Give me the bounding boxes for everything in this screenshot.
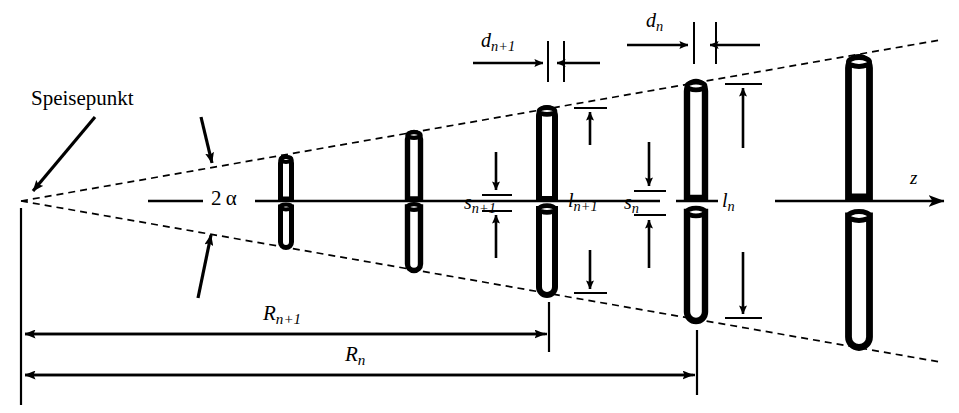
dipole-2-upper [408, 132, 421, 199]
apex-angle-label: 2 α [211, 188, 237, 209]
feed-point-arrow [33, 117, 95, 191]
dipole-n-plus-1-lower [539, 206, 555, 295]
radius-n-base: R [345, 342, 358, 366]
radius-n-plus-1-sub: n+1 [276, 311, 301, 327]
spacing-n-sub: n [656, 18, 663, 34]
length-n-plus-1-label: ln+1 [568, 190, 598, 213]
dipole-n-lower [687, 208, 705, 321]
length-n-sub: n [728, 198, 735, 214]
dipole-1-upper [281, 157, 292, 199]
lower-envelope-line [21, 201, 940, 362]
gap-n-plus-1-base: s [464, 191, 472, 213]
dipole-n-upper [687, 82, 705, 198]
length-n-label: ln [722, 190, 735, 213]
lower-envelope-callout-arrow [198, 235, 211, 298]
dipole-last-lower [849, 212, 870, 348]
radius-n-plus-1-base: R [263, 301, 276, 325]
gap-n-plus-1-sub: n+1 [472, 200, 496, 216]
upper-envelope-callout-arrow [201, 117, 212, 163]
gap-n-plus-1-label: sn+1 [464, 192, 496, 215]
gap-n-base: s [624, 191, 632, 213]
length-n-plus-1-sub: n+1 [574, 198, 598, 214]
dipole-n-plus-1-upper [539, 108, 555, 199]
dipole-2-lower [408, 204, 421, 270]
feed-point-label: Speisepunkt [31, 88, 134, 109]
spacing-n-plus-1-sub: n+1 [491, 38, 515, 54]
radius-n-plus-1-label: Rn+1 [263, 303, 301, 327]
gap-n-sub: n [632, 200, 639, 216]
diagram-canvas: Speisepunkt 2 α dn+1 dn sn+1 sn ln+1 ln … [0, 0, 959, 413]
axis-z-label: z [910, 168, 917, 187]
radius-n-sub: n [358, 352, 366, 368]
spacing-n-plus-1-label: dn+1 [481, 30, 515, 53]
spacing-n-label: dn [646, 10, 663, 33]
radius-n-label: Rn [345, 344, 365, 368]
spacing-n-plus-1-base: d [481, 29, 491, 51]
dipole-1-lower [281, 205, 292, 248]
dipole-last-upper [849, 58, 870, 198]
gap-n-label: sn [624, 192, 639, 215]
spacing-n-base: d [646, 9, 656, 31]
